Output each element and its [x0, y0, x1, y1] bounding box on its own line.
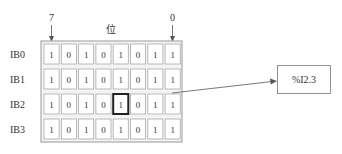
- bit-value: 1: [170, 75, 175, 85]
- bit-value: 0: [67, 75, 72, 85]
- row-label: IB1: [10, 74, 25, 85]
- bit-value: 0: [136, 100, 141, 110]
- pointer-line: [172, 82, 272, 94]
- bit-value: 1: [119, 100, 124, 110]
- bit-value: 1: [119, 50, 124, 60]
- address-label: %I2.3: [292, 74, 316, 85]
- bit-address-diagram: 7 0 位 IB010101011IB110101011IB210101011I…: [0, 0, 342, 154]
- row-label: IB2: [10, 99, 25, 110]
- arrow-right-icon: [270, 79, 277, 85]
- bit-low-label: 0: [170, 12, 175, 23]
- bit-value: 1: [153, 50, 158, 60]
- bit-value: 1: [49, 100, 54, 110]
- bit-value: 0: [136, 75, 141, 85]
- bit-value: 0: [136, 50, 141, 60]
- bit-value: 1: [84, 125, 89, 135]
- bit-value: 0: [67, 100, 72, 110]
- bit-value: 0: [67, 50, 72, 60]
- bit-value: 1: [49, 50, 54, 60]
- bit-value: 0: [67, 125, 72, 135]
- bit-value: 1: [119, 75, 124, 85]
- bit-value: 0: [101, 75, 106, 85]
- bit-value: 1: [84, 50, 89, 60]
- bit-value: 1: [119, 125, 124, 135]
- bit-value: 1: [153, 125, 158, 135]
- bit-value: 1: [49, 125, 54, 135]
- bit-value: 0: [101, 100, 106, 110]
- bit-high-label: 7: [49, 12, 54, 23]
- bit-value: 1: [84, 100, 89, 110]
- bit-value: 0: [136, 125, 141, 135]
- bit-value: 1: [153, 100, 158, 110]
- row-label: IB3: [10, 124, 25, 135]
- bit-value: 1: [170, 100, 175, 110]
- bit-axis-label: 位: [106, 23, 116, 35]
- bit-value: 1: [84, 75, 89, 85]
- bit-value: 1: [49, 75, 54, 85]
- bit-value: 1: [170, 50, 175, 60]
- bit-value: 0: [101, 125, 106, 135]
- bit-value: 0: [101, 50, 106, 60]
- bit-value: 1: [153, 75, 158, 85]
- row-label: IB0: [10, 49, 25, 60]
- bit-value: 1: [170, 125, 175, 135]
